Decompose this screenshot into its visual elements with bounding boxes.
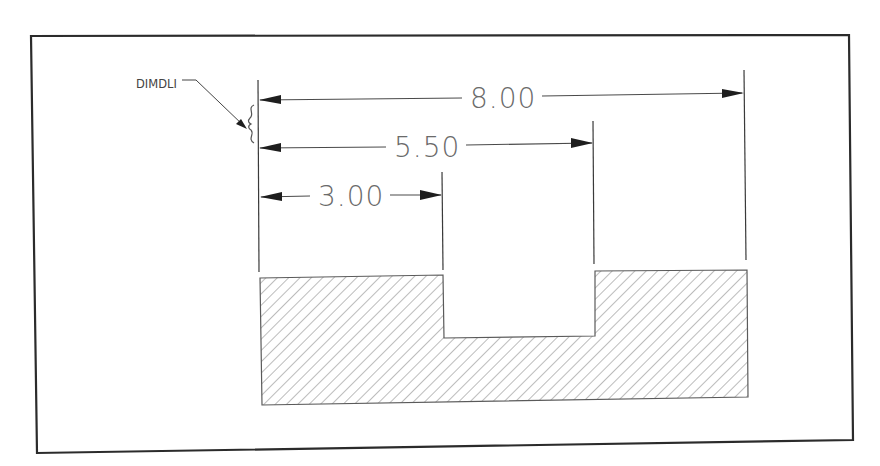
arrowhead-left-icon <box>259 143 281 152</box>
dimension-8-00: 8.00 <box>259 82 744 115</box>
callout-leader-line <box>182 80 244 126</box>
dim-text-5-50: 5.50 <box>394 131 460 164</box>
dimension-3-00: 3.00 <box>260 180 442 213</box>
extension-line-800 <box>744 70 746 260</box>
dim-line-8-00-right <box>542 93 742 96</box>
arrowhead-left-icon <box>260 192 282 201</box>
spacing-brace-icon <box>248 105 254 143</box>
arrowhead-right-icon <box>722 89 744 98</box>
dim-text-8-00: 8.00 <box>470 82 536 115</box>
dim-line-8-00-left <box>260 98 462 100</box>
arrowhead-right-icon <box>420 190 442 200</box>
arrowhead-right-icon <box>571 138 593 148</box>
hatched-part-profile <box>260 270 748 405</box>
dimension-5-50: 5.50 <box>259 131 593 164</box>
dim-text-3-00: 3.00 <box>318 180 384 213</box>
dimension-drawing: DIMDLI 8.00 5.50 3.00 <box>0 0 880 466</box>
dimdli-label: DIMDLI <box>136 77 177 91</box>
dimdli-callout: DIMDLI <box>136 77 254 143</box>
extension-line-left <box>258 80 259 272</box>
extension-line-300 <box>442 172 443 270</box>
extension-line-550 <box>593 121 594 264</box>
arrowhead-left-icon <box>259 95 281 104</box>
